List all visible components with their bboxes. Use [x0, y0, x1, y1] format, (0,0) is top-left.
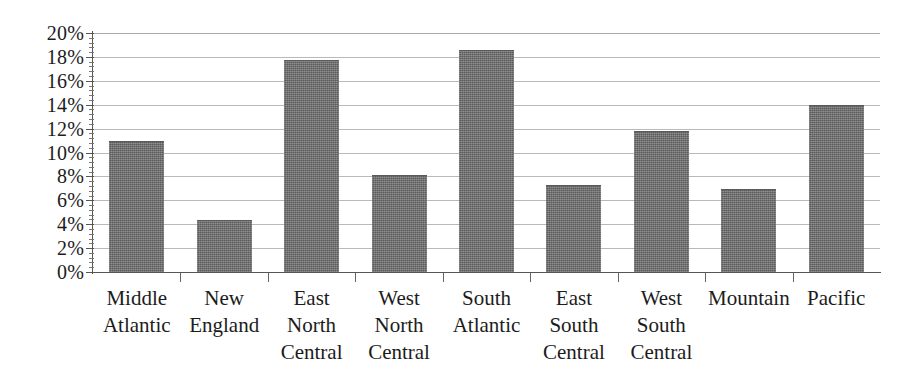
x-axis-label-line: Middle: [93, 285, 180, 312]
x-axis-label-line: Central: [618, 339, 705, 366]
x-axis-boundary-tick: [443, 273, 444, 282]
y-axis-major-tick: [86, 272, 94, 273]
y-axis-minor-tick: [89, 119, 94, 120]
y-axis-minor-tick: [89, 71, 94, 72]
x-axis-label-line: South: [618, 312, 705, 339]
x-axis-boundary-tick: [705, 273, 706, 282]
gridline: [93, 33, 880, 34]
x-axis-label-line: Pacific: [793, 285, 880, 312]
x-axis-label-line: East: [530, 285, 617, 312]
y-axis-minor-tick: [89, 162, 94, 163]
bar: [809, 105, 864, 272]
x-axis-category-label: MiddleAtlantic: [93, 285, 180, 339]
y-axis-minor-tick: [89, 157, 94, 158]
bar: [546, 185, 601, 272]
x-axis-category-label: Pacific: [793, 285, 880, 312]
x-axis-label-line: North: [268, 312, 355, 339]
y-axis-tick-label: 14%: [47, 93, 84, 116]
y-axis-minor-tick: [89, 262, 94, 263]
y-axis-major-tick: [86, 248, 94, 249]
x-axis-label-line: South: [443, 285, 530, 312]
y-axis-minor-tick: [89, 38, 94, 39]
y-axis-minor-tick: [89, 66, 94, 67]
y-axis-labels: 0%2%4%6%8%10%12%14%16%18%20%: [0, 33, 92, 272]
x-axis-boundary-tick: [268, 273, 269, 282]
y-axis-minor-tick: [89, 243, 94, 244]
y-axis-major-tick: [86, 57, 94, 58]
y-axis-minor-tick: [89, 109, 94, 110]
y-axis-tick-label: 10%: [47, 141, 84, 164]
y-axis-major-tick: [86, 129, 94, 130]
x-axis-label-line: New: [180, 285, 267, 312]
y-axis-minor-tick: [89, 47, 94, 48]
x-axis-label-line: East: [268, 285, 355, 312]
y-axis-minor-tick: [89, 181, 94, 182]
y-axis-major-tick: [86, 153, 94, 154]
bar: [372, 175, 427, 272]
x-axis-label-line: South: [530, 312, 617, 339]
y-axis-major-tick: [86, 200, 94, 201]
y-axis-minor-tick: [89, 76, 94, 77]
y-axis-tick-label: 8%: [57, 165, 84, 188]
y-axis-tick-label: 6%: [57, 189, 84, 212]
x-axis-category-label: SouthAtlantic: [443, 285, 530, 339]
x-axis-boundary-tick: [618, 273, 619, 282]
y-axis-minor-tick: [89, 90, 94, 91]
x-axis-label-line: Central: [530, 339, 617, 366]
y-axis-minor-tick: [89, 114, 94, 115]
x-axis-label-line: Atlantic: [443, 312, 530, 339]
y-axis-minor-tick: [89, 196, 94, 197]
x-axis-label-line: Atlantic: [93, 312, 180, 339]
x-axis-boundary-tick: [530, 273, 531, 282]
x-axis-category-label: NewEngland: [180, 285, 267, 339]
y-axis-minor-tick: [89, 253, 94, 254]
y-axis-tick-label: 16%: [47, 69, 84, 92]
x-axis-boundary-tick: [180, 273, 181, 282]
x-axis-category-label: WestSouthCentral: [618, 285, 705, 366]
y-axis-minor-tick: [89, 219, 94, 220]
y-axis-tick-label: 20%: [47, 22, 84, 45]
plot-area: [93, 33, 880, 272]
y-axis-major-tick: [86, 105, 94, 106]
y-axis-minor-tick: [89, 100, 94, 101]
bar: [459, 50, 514, 272]
x-axis-label-line: Mountain: [705, 285, 792, 312]
y-axis-tick-label: 18%: [47, 45, 84, 68]
bar: [284, 60, 339, 273]
y-axis-tick-label: 4%: [57, 213, 84, 236]
y-axis-minor-tick: [89, 62, 94, 63]
y-axis-minor-tick: [89, 143, 94, 144]
y-axis-minor-tick: [89, 52, 94, 53]
y-axis-minor-tick: [89, 138, 94, 139]
x-axis-category-label: EastSouthCentral: [530, 285, 617, 366]
x-axis-boundary-tick: [793, 273, 794, 282]
x-axis-line: [92, 272, 881, 273]
y-axis-minor-tick: [89, 95, 94, 96]
bar: [634, 131, 689, 272]
y-axis-minor-tick: [89, 258, 94, 259]
y-axis-minor-tick: [89, 229, 94, 230]
y-axis-minor-tick: [89, 133, 94, 134]
y-axis-minor-tick: [89, 148, 94, 149]
y-axis-minor-tick: [89, 267, 94, 268]
y-axis-minor-tick: [89, 167, 94, 168]
x-axis-boundary-tick: [355, 273, 356, 282]
y-axis-minor-tick: [89, 124, 94, 125]
y-axis-tick-label: 0%: [57, 261, 84, 284]
x-axis-label-line: England: [180, 312, 267, 339]
bar: [197, 220, 252, 272]
bar: [109, 141, 164, 272]
x-axis-label-line: West: [355, 285, 442, 312]
y-axis-minor-tick: [89, 172, 94, 173]
x-axis-label-line: Central: [268, 339, 355, 366]
x-axis-category-labels: MiddleAtlanticNewEnglandEastNorthCentral…: [93, 285, 880, 377]
bar-chart: 0%2%4%6%8%10%12%14%16%18%20% MiddleAtlan…: [0, 0, 911, 380]
y-axis-major-tick: [86, 224, 94, 225]
x-axis-category-label: EastNorthCentral: [268, 285, 355, 366]
y-axis-ticks: [93, 33, 94, 272]
y-axis-minor-tick: [89, 86, 94, 87]
y-axis-minor-tick: [89, 205, 94, 206]
y-axis-minor-tick: [89, 210, 94, 211]
y-axis-tick-label: 2%: [57, 237, 84, 260]
y-axis-minor-tick: [89, 186, 94, 187]
